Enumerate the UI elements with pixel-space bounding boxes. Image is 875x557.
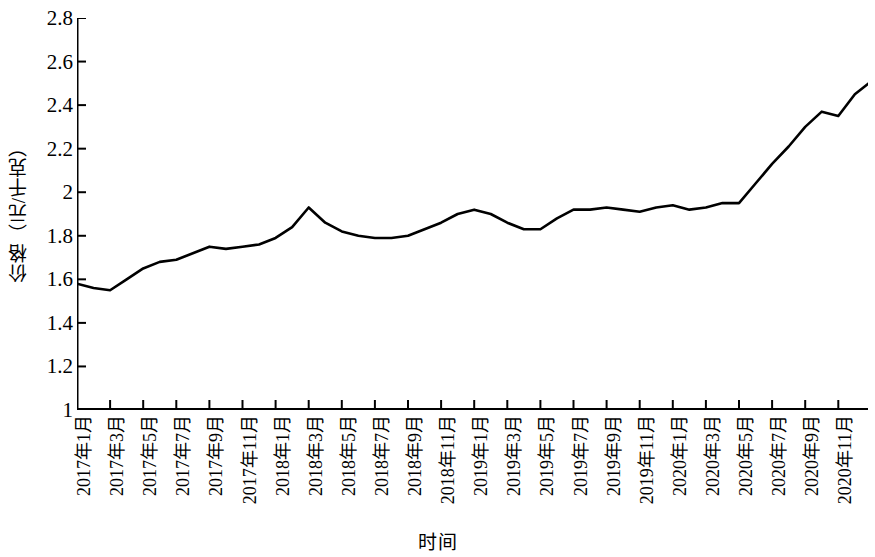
plot-svg xyxy=(77,18,868,410)
price-time-line-chart: 价格（元/千克） 11.21.41.61.822.22.42.62.8 2017… xyxy=(0,0,875,557)
x-axis-tick-label: 2020年9月 xyxy=(803,415,821,496)
x-axis-tick-label: 2019年1月 xyxy=(472,415,490,496)
y-axis-tick-label: 2.4 xyxy=(29,95,73,116)
x-axis-title: 时间 xyxy=(0,527,875,554)
x-axis-tick-label: 2017年11月 xyxy=(241,415,259,504)
y-axis-tick-label: 2.6 xyxy=(29,51,73,72)
x-axis-tick-label: 2019年5月 xyxy=(538,415,556,496)
y-axis-tick-label: 1.2 xyxy=(29,356,73,377)
x-axis-tick-labels: 2017年1月2017年3月2017年5月2017年7月2017年9月2017年… xyxy=(77,415,872,525)
x-axis-tick-label: 2018年5月 xyxy=(340,415,358,496)
x-axis-tick-label: 2019年11月 xyxy=(638,415,656,504)
y-axis-tick-label: 2.2 xyxy=(29,138,73,159)
price-series-line xyxy=(77,68,868,290)
axis-lines xyxy=(77,18,868,410)
y-axis-tick-label: 1.6 xyxy=(29,269,73,290)
x-axis-tick-label: 2018年9月 xyxy=(406,415,424,496)
x-axis-tick-label: 2020年3月 xyxy=(704,415,722,496)
y-axis-tick-label: 1.4 xyxy=(29,312,73,333)
x-axis-tick-label: 2020年1月 xyxy=(671,415,689,496)
y-axis-tick-labels: 11.21.41.61.822.22.42.62.8 xyxy=(25,18,73,410)
x-axis-tick-label: 2018年11月 xyxy=(439,415,457,504)
y-axis-tick-label: 1.8 xyxy=(29,225,73,246)
x-axis-tick-label: 2019年7月 xyxy=(572,415,590,496)
y-axis-tick-label: 2 xyxy=(29,182,73,203)
plot-area xyxy=(77,18,868,410)
x-axis-tick-label: 2020年7月 xyxy=(770,415,788,496)
x-axis-title-text: 时间 xyxy=(418,532,458,553)
x-axis-tick-label: 2020年5月 xyxy=(737,415,755,496)
y-axis-ticks xyxy=(78,18,86,410)
y-axis-tick-label: 1 xyxy=(29,400,73,421)
y-axis-tick-label: 2.8 xyxy=(29,8,73,29)
x-axis-tick-label: 2019年9月 xyxy=(605,415,623,496)
x-axis-tick-label: 2020年11月 xyxy=(836,415,854,504)
x-axis-tick-label: 2019年3月 xyxy=(505,415,523,496)
x-axis-tick-label: 2017年5月 xyxy=(141,415,159,496)
x-axis-tick-label: 2017年9月 xyxy=(207,415,225,496)
x-axis-ticks xyxy=(77,400,838,409)
x-axis-tick-label: 2017年1月 xyxy=(75,415,93,496)
x-axis-tick-label: 2017年7月 xyxy=(174,415,192,496)
x-axis-tick-label: 2017年3月 xyxy=(108,415,126,496)
x-axis-tick-label: 2018年7月 xyxy=(373,415,391,496)
x-axis-tick-label: 2018年3月 xyxy=(307,415,325,496)
x-axis-tick-label: 2018年1月 xyxy=(274,415,292,496)
